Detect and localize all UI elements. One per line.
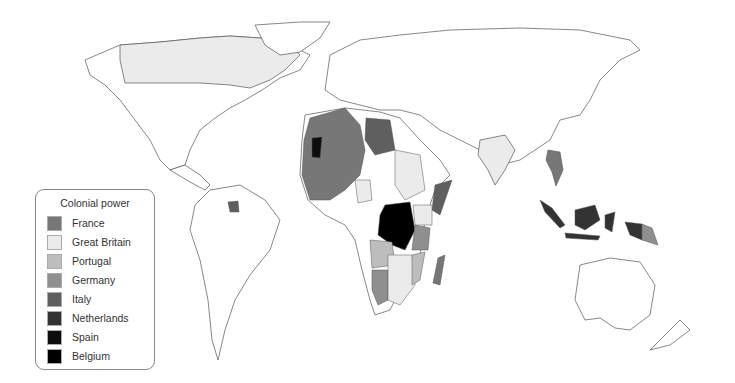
legend-label: Belgium	[72, 350, 110, 362]
legend-item-portugal: Portugal	[47, 253, 111, 269]
australia	[575, 258, 655, 330]
legend-label: Netherlands	[72, 312, 129, 324]
legend: Colonial power France Great Britain Port…	[35, 189, 155, 370]
swatch-france	[47, 216, 62, 231]
central-america	[170, 165, 210, 190]
legend-item-italy: Italy	[47, 291, 91, 307]
legend-label: Germany	[72, 274, 115, 286]
madagascar	[433, 255, 445, 285]
legend-label: Spain	[72, 331, 99, 343]
nigeria	[355, 180, 372, 203]
sumatra	[540, 200, 565, 228]
swatch-spain	[47, 330, 62, 345]
legend-item-great-britain: Great Britain	[47, 234, 131, 250]
legend-label: Portugal	[72, 255, 111, 267]
legend-label: Great Britain	[72, 236, 131, 248]
swatch-germany	[47, 273, 62, 288]
indochina	[546, 150, 563, 186]
sulawesi	[605, 212, 615, 232]
mozambique	[412, 252, 425, 285]
swatch-portugal	[47, 254, 62, 269]
german-new-guinea	[642, 224, 658, 245]
southern-africa	[388, 255, 415, 305]
legend-label: Italy	[72, 293, 91, 305]
kenya	[413, 205, 432, 225]
german-east-africa	[412, 225, 430, 250]
spanish-sahara	[312, 137, 322, 158]
french-guiana	[228, 201, 239, 212]
swatch-netherlands	[47, 311, 62, 326]
swatch-belgium	[47, 349, 62, 364]
legend-item-germany: Germany	[47, 272, 115, 288]
legend-item-netherlands: Netherlands	[47, 310, 129, 326]
swatch-italy	[47, 292, 62, 307]
legend-title: Colonial power	[36, 197, 154, 209]
somalia	[432, 180, 452, 215]
java	[565, 233, 600, 240]
legend-item-spain: Spain	[47, 329, 99, 345]
dutch-new-guinea	[625, 222, 642, 240]
legend-item-france: France	[47, 215, 105, 231]
india	[478, 135, 515, 185]
borneo	[575, 205, 600, 230]
legend-item-belgium: Belgium	[47, 348, 110, 364]
swatch-great-britain	[47, 235, 62, 250]
new-zealand	[650, 320, 690, 350]
legend-label: France	[72, 217, 105, 229]
